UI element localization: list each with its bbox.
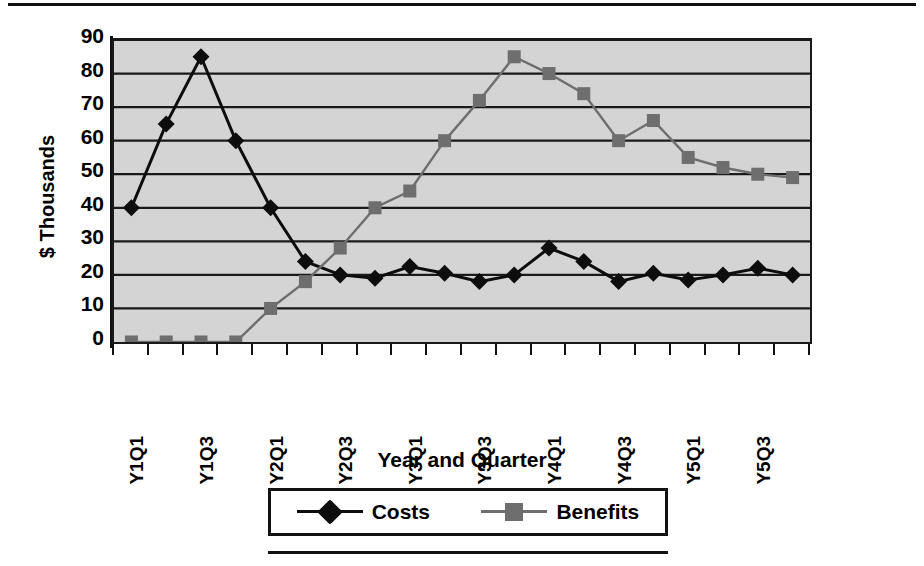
data-point-costs <box>401 258 418 275</box>
x-tick-mark <box>738 344 740 355</box>
x-tick-mark <box>321 344 323 355</box>
x-tick-mark <box>216 344 218 355</box>
y-tick-label: 0 <box>92 327 104 348</box>
data-point-costs <box>645 265 662 282</box>
y-tick-label: 10 <box>81 293 104 314</box>
plot-area <box>112 38 812 344</box>
y-tick-label: 40 <box>81 192 104 213</box>
x-tick-mark <box>669 344 671 355</box>
legend-entry-costs: Costs <box>297 500 430 524</box>
legend-label-benefits: Benefits <box>556 500 639 524</box>
data-point-benefits <box>195 336 208 343</box>
line-chart: $ Thousands 0102030405060708090 Y1Q1Y1Q3… <box>0 0 924 566</box>
series-line-benefits <box>131 57 792 342</box>
x-axis-tick-labels: Y1Q1Y1Q3Y2Q1Y2Q3Y3Q1Y3Q3Y4Q1Y4Q3Y5Q1Y5Q3 <box>112 356 812 440</box>
x-tick-mark <box>599 344 601 355</box>
plot-svg <box>114 40 810 342</box>
data-point-benefits <box>751 168 764 181</box>
data-point-benefits <box>160 336 173 343</box>
y-tick-label: 70 <box>81 92 104 113</box>
data-point-benefits <box>299 275 312 288</box>
data-point-costs <box>715 266 732 283</box>
y-tick-label: 50 <box>81 159 104 180</box>
legend-entry-benefits: Benefits <box>481 500 639 524</box>
data-point-benefits <box>369 201 382 214</box>
x-axis-tick-marks <box>112 344 812 356</box>
data-point-costs <box>297 253 314 270</box>
y-tick-label: 20 <box>81 259 104 280</box>
x-tick-mark <box>808 344 810 355</box>
data-point-benefits <box>264 302 277 315</box>
data-point-benefits <box>543 67 556 80</box>
data-point-benefits <box>508 50 521 63</box>
data-point-benefits <box>125 336 138 343</box>
data-point-costs <box>227 132 244 149</box>
x-tick-mark <box>356 344 358 355</box>
x-tick-mark <box>112 344 114 355</box>
data-point-costs <box>332 266 349 283</box>
data-point-costs <box>575 253 592 270</box>
y-axis-title: $ Thousands <box>36 87 59 307</box>
y-axis-tick-labels: 0102030405060708090 <box>58 32 104 344</box>
data-point-benefits <box>577 87 590 100</box>
y-tick-label: 30 <box>81 226 104 247</box>
x-tick-mark <box>634 344 636 355</box>
x-tick-mark <box>425 344 427 355</box>
x-tick-mark <box>564 344 566 355</box>
data-point-costs <box>193 48 210 65</box>
x-tick-mark <box>773 344 775 355</box>
legend-label-costs: Costs <box>372 500 430 524</box>
legend-key-costs <box>297 503 363 521</box>
data-point-benefits <box>229 336 242 343</box>
y-tick-label: 80 <box>81 58 104 79</box>
data-point-benefits <box>403 185 416 198</box>
y-tick-label: 60 <box>81 125 104 146</box>
x-tick-mark <box>286 344 288 355</box>
y-tick-label: 90 <box>81 25 104 46</box>
x-tick-mark <box>530 344 532 355</box>
data-point-benefits <box>786 171 799 184</box>
x-tick-mark <box>182 344 184 355</box>
data-point-costs <box>436 265 453 282</box>
data-point-benefits <box>473 94 486 107</box>
data-point-benefits <box>438 134 451 147</box>
data-point-costs <box>784 266 801 283</box>
legend-key-benefits <box>481 503 547 521</box>
data-point-benefits <box>717 161 730 174</box>
chart-page: $ Thousands 0102030405060708090 Y1Q1Y1Q3… <box>0 0 924 566</box>
bottom-divider-rule <box>268 551 668 554</box>
x-tick-mark <box>495 344 497 355</box>
x-tick-mark <box>460 344 462 355</box>
diamond-marker-icon <box>317 499 342 524</box>
square-marker-icon <box>505 503 523 521</box>
series-line-costs <box>131 57 792 282</box>
chart-legend: Costs Benefits <box>268 488 668 536</box>
data-point-costs <box>123 199 140 216</box>
data-point-benefits <box>682 151 695 164</box>
data-point-costs <box>158 115 175 132</box>
data-point-benefits <box>647 114 660 127</box>
x-axis-title: Year and Quarter <box>112 448 812 472</box>
data-point-costs <box>367 270 384 287</box>
data-point-benefits <box>334 242 347 255</box>
data-point-benefits <box>612 134 625 147</box>
x-tick-mark <box>251 344 253 355</box>
x-tick-mark <box>390 344 392 355</box>
data-point-costs <box>262 199 279 216</box>
x-tick-mark <box>704 344 706 355</box>
x-tick-mark <box>147 344 149 355</box>
